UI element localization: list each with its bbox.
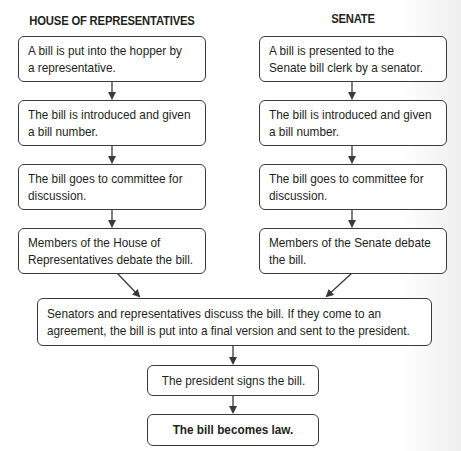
house-to-joint-arrow	[117, 273, 139, 296]
house-step-committee: The bill goes to committee for discussio…	[18, 164, 206, 210]
step-text-line: a representative.	[28, 59, 178, 76]
step-text-line: Senators and representatives discuss the…	[47, 305, 379, 322]
president-signs-step: The president signs the bill.	[147, 365, 319, 396]
step-text-line: A bill is presented to the	[269, 42, 419, 59]
step-text-line: The bill is introduced and given	[28, 106, 178, 123]
step-text-line: The bill is introduced and given	[269, 106, 419, 123]
step-text-line: A bill is put into the hopper by	[28, 42, 178, 59]
step-text-line: Senate bill clerk by a senator.	[269, 59, 419, 76]
joint-step-conference: Senators and representatives discuss the…	[37, 298, 432, 346]
senate-column-header: SENATE	[268, 12, 437, 26]
step-text-line: Members of the House of	[28, 234, 178, 251]
step-text-line: The bill becomes law.	[162, 421, 305, 438]
house-step-hopper: A bill is put into the hopper by a repre…	[18, 36, 206, 82]
step-text-line: discussion.	[269, 187, 419, 204]
senate-step-clerk: A bill is presented to the Senate bill c…	[259, 36, 447, 82]
senate-step-introduced: The bill is introduced and given a bill …	[259, 100, 447, 146]
senate-to-joint-arrow	[327, 273, 352, 296]
step-text-line: the bill.	[269, 251, 419, 268]
step-text-line: agreement, the bill is put into a final …	[47, 322, 379, 339]
step-text-line: Representatives debate the bill.	[28, 251, 178, 268]
house-column-header: HOUSE OF REPRESENTATIVES	[27, 14, 196, 28]
senate-step-debate: Members of the Senate debate the bill.	[259, 228, 447, 274]
step-text-line: a bill number.	[28, 123, 178, 140]
house-step-debate: Members of the House of Representatives …	[18, 228, 206, 274]
step-text-line: Members of the Senate debate	[269, 234, 419, 251]
step-text-line: a bill number.	[269, 123, 419, 140]
house-step-introduced: The bill is introduced and given a bill …	[18, 100, 206, 146]
step-text-line: The bill goes to committee for	[269, 170, 419, 187]
step-text-line: The bill goes to committee for	[28, 170, 178, 187]
step-text-line: discussion.	[28, 187, 178, 204]
bill-becomes-law-step: The bill becomes law.	[147, 414, 319, 446]
senate-step-committee: The bill goes to committee for discussio…	[259, 164, 447, 210]
step-text-line: The president signs the bill.	[162, 372, 305, 389]
